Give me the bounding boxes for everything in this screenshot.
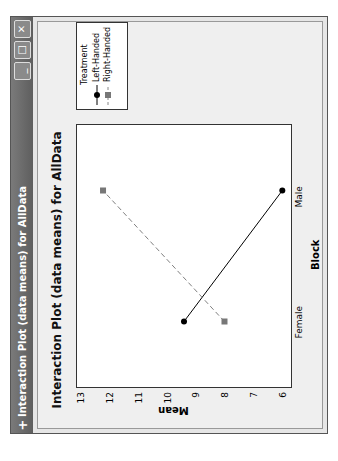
- window-menu-icon[interactable]: +: [15, 417, 30, 433]
- graph-content: Interaction Plot (data means) for AllDat…: [37, 21, 323, 429]
- x-tick-label: Male: [294, 186, 304, 207]
- window-title: Interaction Plot (data means) for AllDat…: [17, 80, 28, 417]
- y-tick-label: 8: [220, 392, 230, 406]
- plot-area: [76, 124, 292, 388]
- y-tick-label: 11: [134, 392, 144, 406]
- data-point: [221, 319, 227, 325]
- data-point: [279, 188, 285, 194]
- x-axis-label: Block: [310, 240, 321, 271]
- y-tick-label: 13: [76, 392, 86, 406]
- screenshot: + Interaction Plot (data means) for AllD…: [0, 0, 338, 461]
- close-button[interactable]: ✕: [14, 20, 31, 38]
- legend-item-right-handed: Right-Handed: [102, 23, 113, 109]
- y-tick-label: 7: [249, 392, 259, 406]
- data-point: [100, 188, 106, 194]
- x-tick-label: Female: [294, 306, 304, 339]
- y-tick-label: 12: [105, 392, 115, 406]
- legend-item-left-handed: Left-Handed: [91, 23, 102, 109]
- legend: Treatment Left-Handed Right-Handed: [76, 22, 128, 110]
- circle-marker-icon: [93, 85, 101, 105]
- y-tick-label: 10: [163, 392, 173, 406]
- maximize-button[interactable]: □: [14, 41, 31, 59]
- y-axis-label: Mean: [158, 405, 189, 416]
- legend-title: Treatment: [77, 23, 91, 109]
- y-tick-label: 9: [191, 392, 201, 406]
- chart-window: + Interaction Plot (data means) for AllD…: [10, 16, 328, 434]
- y-tick-label: 6: [278, 392, 288, 406]
- chart-title: Interaction Plot (data means) for AllDat…: [50, 112, 64, 428]
- square-marker-icon: [104, 85, 112, 105]
- minimize-button[interactable]: _: [14, 62, 31, 80]
- data-point: [181, 319, 187, 325]
- interaction-lines: [77, 125, 291, 387]
- title-bar[interactable]: + Interaction Plot (data means) for AllD…: [11, 17, 33, 433]
